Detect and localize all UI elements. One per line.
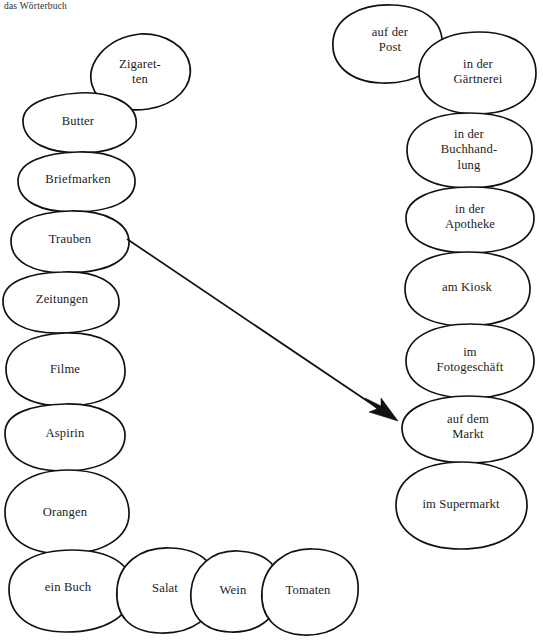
blob-im-fotogeschaeft[interactable] [406,324,534,398]
blob-group-places [333,5,536,549]
blob-in-der-gaertnerei[interactable] [419,32,536,114]
blob-butter[interactable] [23,93,136,153]
vocabulary-blob-diagram [0,0,543,643]
worksheet-page: das Wörterbuch [0,0,543,643]
blob-in-der-apotheke[interactable] [406,187,534,253]
blob-group-goods [3,34,358,635]
connection-line [127,239,391,417]
blob-im-supermarkt[interactable] [396,462,527,549]
connection-trauben-to-auf-dem-markt [127,239,398,421]
arrow-head-icon [365,398,398,421]
blob-am-kiosk[interactable] [405,252,530,326]
blob-aspirin[interactable] [5,404,125,471]
blob-ein-buch[interactable] [9,550,133,632]
blob-filme[interactable] [6,333,125,406]
blob-in-der-buchhandlung[interactable] [407,113,532,188]
blob-auf-dem-markt[interactable] [402,396,533,463]
blob-zeitungen[interactable] [3,272,119,333]
blob-tomaten[interactable] [262,549,358,635]
blob-orangen[interactable] [5,470,129,554]
blob-trauben[interactable] [11,211,129,273]
blob-briefmarken[interactable] [18,152,135,212]
